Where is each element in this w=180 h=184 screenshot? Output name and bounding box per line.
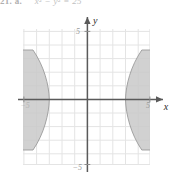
y-tick-label-bottom: −5 bbox=[73, 163, 82, 172]
x-axis-arrow bbox=[156, 96, 163, 102]
x-tick-label-right: 5 bbox=[146, 101, 150, 110]
hyperbola-figure: 21. a. x² − y² = 25 bbox=[0, 0, 180, 184]
y-axis-label: y bbox=[92, 15, 98, 26]
coordinate-plot: 5 −5 5 −5 y x bbox=[0, 0, 180, 184]
y-tick-label-top: 5 bbox=[76, 27, 80, 36]
y-axis-arrow bbox=[84, 17, 90, 24]
x-tick-label-left: −5 bbox=[20, 101, 29, 110]
x-axis-label: x bbox=[163, 101, 169, 112]
